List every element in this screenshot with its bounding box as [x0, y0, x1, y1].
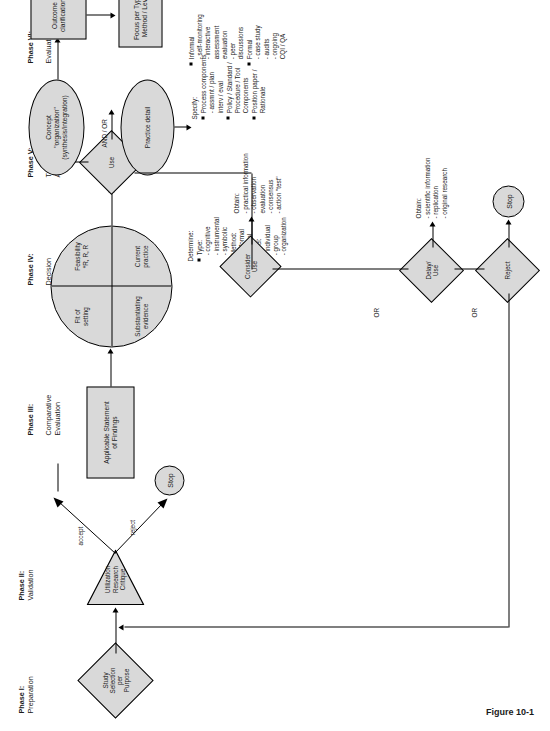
edge-practice-to-specify-arrow	[186, 125, 191, 131]
phase-3-title: Phase III:	[25, 394, 34, 435]
list-evaluation-item: Informal	[187, 0, 195, 65]
bullet-square-icon	[201, 116, 204, 119]
list-obtain-scientific-header: Obtain:	[414, 98, 422, 218]
edge-use-to-determine-arrow	[108, 109, 114, 114]
node-delay-use-label: Delay/ Use	[408, 247, 454, 293]
phase-1-title: Phase I:	[16, 676, 25, 713]
edge-reject-to-stop	[508, 223, 509, 247]
edge-delay-to-obtain-arrow	[429, 221, 435, 226]
node-applicable-statement[interactable]: Applicable Statement of Findings	[86, 386, 134, 478]
figure-caption: Figure 10-1	[486, 707, 534, 717]
edge-return-vertical	[124, 626, 508, 627]
edge-reject-to-stop-arrow	[505, 219, 511, 224]
quadrant-current-practice: Current practice	[111, 226, 171, 286]
flowchart-canvas: Phase I: Preparation Phase II: Validatio…	[0, 0, 550, 731]
node-practice-detail-ellipse[interactable]: Practice detail	[120, 79, 174, 175]
list-obtain-scientific-subs: - scientific information - replication -…	[423, 98, 448, 218]
node-outcome-clarification-label: Outcome clarification	[50, 0, 66, 32]
edge-delay-to-obtain	[432, 225, 433, 247]
list-obtain-scientific: Obtain: - scientific information - repli…	[414, 98, 448, 218]
edge-label-and-or: AND / OR	[100, 119, 107, 147]
quadrant-feasibility: Feasibility *R, R, R	[51, 226, 111, 286]
edge-return-arrow	[118, 624, 123, 630]
node-utilization-research-critique[interactable]: Utilization Research Critique	[86, 549, 144, 605]
edge-outcome-to-focus	[86, 15, 112, 16]
edge-label-or-1: OR	[372, 307, 379, 317]
edge-accept	[52, 485, 118, 555]
edge-statement-to-circle-arrow	[107, 348, 113, 353]
list-evaluation-item: Formal	[245, 0, 253, 65]
node-concept-label: Concept "organization" (synthesis/integr…	[44, 95, 69, 160]
edge-label-or-2: OR	[470, 307, 477, 317]
phase-label-1: Phase I: Preparation	[16, 676, 34, 713]
edge-outcome-to-focus-arrow	[110, 13, 115, 19]
bullet-square-icon	[226, 116, 229, 119]
phase-2-title: Phase II:	[16, 569, 25, 600]
node-practice-detail-label: Practice detail	[143, 106, 151, 147]
list-evaluation-item-subs: - case study - audits - ongoing CQI / QA	[253, 0, 286, 59]
edge-spine-consider-delay	[272, 269, 408, 270]
edge-statement-to-circle	[110, 352, 111, 386]
node-outcome-clarification[interactable]: Outcome clarification	[30, 0, 86, 39]
node-stop-reject-label: Stop	[505, 194, 512, 208]
node-delay-use-diamond[interactable]: Delay/ Use	[408, 247, 454, 293]
node-critique-label: Utilization Research Critique	[103, 557, 126, 601]
edge-return-long	[508, 293, 509, 627]
node-consider-use-diamond[interactable]: Consider Use	[228, 244, 272, 288]
edge-feedback-horizontal	[251, 173, 252, 269]
edge-study-to-critique-arrow	[112, 607, 118, 612]
node-concept-ellipse[interactable]: Concept "organization" (synthesis/integr…	[28, 79, 84, 175]
edge-circle-to-use	[111, 191, 112, 225]
quadrant-substantiating-evidence: Substantiating evidence	[111, 286, 171, 346]
node-focus-per-label: Focus per Type / Method / Level	[132, 0, 148, 40]
phase-label-3: Phase III: Comparative Evaluation	[16, 394, 70, 435]
bullet-square-icon	[247, 62, 250, 65]
node-study-selection[interactable]: Study Selection per Purpose	[88, 653, 142, 707]
edge-reject	[110, 485, 172, 555]
list-specify-item-label: Position paper / Rationale	[250, 69, 266, 113]
list-evaluation-item-subs: - self-monitoring - interactive assessme…	[195, 0, 244, 59]
phase-label-2: Phase II: Validation	[16, 569, 34, 600]
node-study-selection-label: Study Selection per Purpose	[88, 653, 142, 707]
figure-page: Phase I: Preparation Phase II: Validatio…	[0, 0, 550, 731]
list-determine-item: Type:	[195, 141, 203, 261]
node-consider-use-label: Consider Use	[228, 244, 272, 288]
node-comparative-evaluation-circle[interactable]: Fit of setting Feasibility *R, R, R Subs…	[50, 225, 172, 347]
edge-study-to-critique	[115, 611, 116, 653]
edge-accept-to-statement	[57, 463, 58, 491]
edge-use-to-determine	[111, 113, 112, 139]
list-evaluation-item-label: Formal	[245, 39, 253, 59]
edge-concept-to-outcome	[57, 41, 58, 79]
phase-3-subtitle: Comparative Evaluation	[43, 394, 61, 435]
bullet-square-icon	[197, 258, 200, 261]
node-applicable-statement-label: Applicable Statement of Findings	[102, 401, 118, 463]
edge-feedback-vertical	[134, 173, 251, 174]
edge-label-accept: accept	[76, 526, 83, 545]
quadrant-fit-of-setting: Fit of setting	[51, 286, 111, 346]
node-stop-reject[interactable]: Stop	[492, 185, 524, 217]
list-evaluation-item-label: Informal	[187, 36, 195, 59]
phase-1-subtitle: Preparation	[25, 676, 34, 713]
node-reject-diamond[interactable]: Reject	[484, 247, 530, 293]
list-determine-item-subs: - cognitive - instrumental - symbolic	[203, 141, 228, 255]
node-reject-label: Reject	[484, 247, 530, 293]
list-evaluation-methods: Informal - self-monitoring - interactive…	[186, 0, 286, 65]
edge-label-reject: reject	[128, 519, 135, 535]
list-determine-header: Determine:	[186, 141, 194, 261]
edge-spine-delay-reject	[454, 269, 484, 270]
bullet-square-icon	[252, 116, 255, 119]
bullet-square-icon	[189, 62, 192, 65]
phase-2-subtitle: Validation	[25, 569, 34, 600]
node-focus-per[interactable]: Focus per Type / Method / Level	[118, 0, 162, 47]
phase-4-title: Phase IV:	[25, 253, 34, 285]
node-stop-validation-label: Stop	[166, 473, 173, 487]
list-determine-item-label: Type:	[195, 239, 203, 254]
list-specify-item-label: Policy / Standard / Procedure / Tool Com…	[225, 62, 250, 113]
node-stop-validation[interactable]: Stop	[154, 465, 184, 495]
